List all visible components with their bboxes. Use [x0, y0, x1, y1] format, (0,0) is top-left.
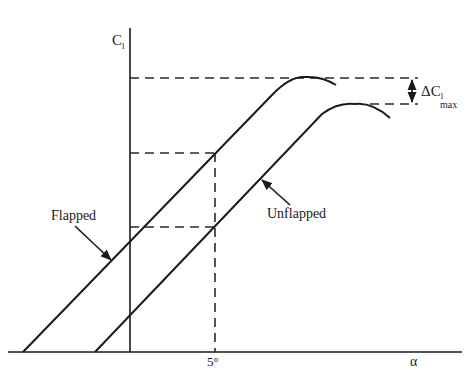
x-tick-5deg-label: 5°	[207, 354, 219, 369]
unflapped-pointer-arrow	[262, 180, 290, 205]
x-axis-label: α	[410, 354, 418, 369]
lift-curve-diagram: Cl ΔCl max Flapped Unflapped 5° α	[0, 0, 470, 370]
flapped-pointer-arrow	[75, 226, 111, 260]
unflapped-lift-curve	[95, 104, 390, 352]
delta-clmax-subscript-max: max	[440, 99, 457, 110]
unflapped-label: Unflapped	[267, 206, 326, 221]
flapped-label: Flapped	[51, 208, 96, 223]
y-axis-label: Cl	[112, 32, 125, 51]
